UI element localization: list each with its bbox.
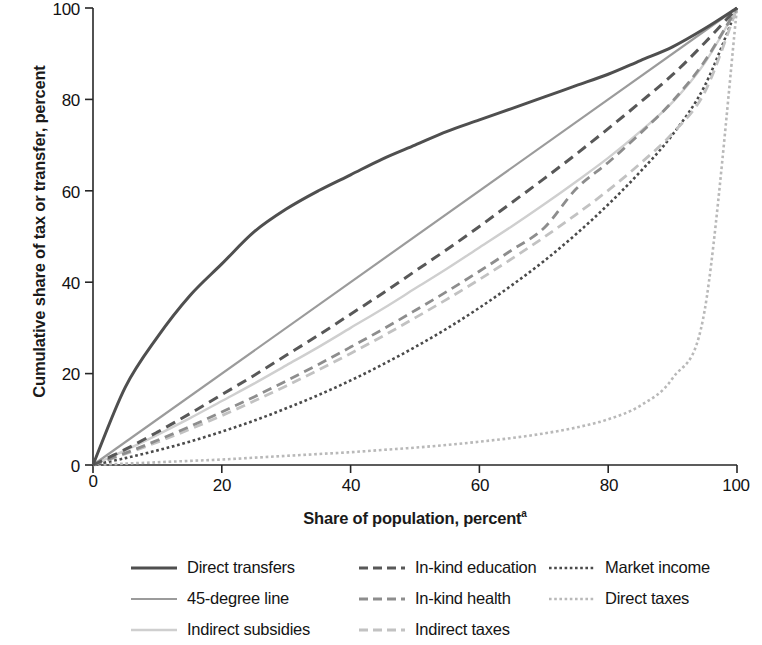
legend-swatch-indirect-subsidies bbox=[130, 623, 178, 637]
legend-item-indirect-subsidies[interactable]: Indirect subsidies bbox=[130, 614, 358, 645]
legend-item-45-degree-line[interactable]: 45-degree line bbox=[130, 583, 358, 614]
plot-area bbox=[0, 0, 762, 500]
chart-legend: Direct transfers In-kind education Marke… bbox=[130, 552, 762, 644]
legend-empty-cell bbox=[548, 614, 762, 645]
legend-swatch-in-kind-health bbox=[358, 592, 406, 606]
legend-label-indirect-taxes: Indirect taxes bbox=[415, 620, 510, 639]
legend-swatch-45-degree-line bbox=[130, 592, 178, 606]
legend-item-direct-transfers[interactable]: Direct transfers bbox=[130, 552, 358, 583]
legend-label-in-kind-health: In-kind health bbox=[415, 589, 511, 608]
legend-label-direct-taxes: Direct taxes bbox=[605, 589, 689, 608]
legend-label-45-degree-line: 45-degree line bbox=[187, 589, 289, 608]
legend-swatch-market-income bbox=[548, 561, 596, 575]
data-series-layer bbox=[93, 8, 737, 465]
legend-label-in-kind-education: In-kind education bbox=[415, 558, 536, 577]
legend-label-indirect-subsidies: Indirect subsidies bbox=[187, 620, 310, 639]
legend-item-in-kind-education[interactable]: In-kind education bbox=[358, 552, 548, 583]
legend-swatch-direct-transfers bbox=[130, 561, 178, 575]
series-line-45-degree-line bbox=[93, 8, 737, 465]
legend-swatch-direct-taxes bbox=[548, 592, 596, 606]
legend-label-market-income: Market income bbox=[605, 558, 710, 577]
lorenz-curve-figure: Cumulative share of tax or transfer, per… bbox=[0, 0, 762, 645]
legend-label-direct-transfers: Direct transfers bbox=[187, 558, 295, 577]
x-axis-label-text: Share of population, percent bbox=[303, 509, 521, 527]
legend-item-in-kind-health[interactable]: In-kind health bbox=[358, 583, 548, 614]
x-axis-label: Share of population, percenta bbox=[93, 508, 737, 528]
legend-item-market-income[interactable]: Market income bbox=[548, 552, 762, 583]
legend-item-direct-taxes[interactable]: Direct taxes bbox=[548, 583, 762, 614]
legend-swatch-in-kind-education bbox=[358, 561, 406, 575]
legend-swatch-indirect-taxes bbox=[358, 623, 406, 637]
legend-item-indirect-taxes[interactable]: Indirect taxes bbox=[358, 614, 548, 645]
x-axis-label-footnote-marker: a bbox=[521, 508, 526, 519]
